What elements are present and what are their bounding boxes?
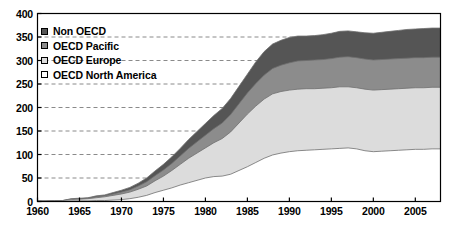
x-axis-tick-label: 2005 [395,205,435,217]
legend-item[interactable]: OECD Europe [41,54,121,66]
y-axis-tick-label: 100 [0,149,33,161]
legend-label: OECD Pacific [53,40,119,52]
legend-swatch-icon [41,57,48,64]
x-axis-tick-label: 1975 [143,205,183,217]
legend-item[interactable]: Non OECD [41,25,106,37]
legend-label: OECD Europe [53,54,121,66]
y-axis-tick-label: 300 [0,55,33,67]
x-axis-tick-label: 1960 [18,205,58,217]
legend-label: OECD North America [53,69,156,81]
legend-swatch-icon [41,71,48,78]
x-axis-tick-label: 1980 [185,205,225,217]
legend-item[interactable]: OECD North America [41,69,156,81]
y-axis-tick-label: 50 [0,172,33,184]
legend-swatch-icon [41,42,48,49]
x-axis-tick-label: 1970 [101,205,141,217]
chart-container: 0501001502002503003504001960196519701975… [0,0,456,228]
x-axis-tick-label: 1995 [311,205,351,217]
y-axis-tick-label: 150 [0,125,33,137]
legend-item[interactable]: OECD Pacific [41,40,119,52]
x-axis-tick-label: 1965 [59,205,99,217]
y-axis-tick-label: 250 [0,78,33,90]
y-axis-tick-label: 350 [0,31,33,43]
y-axis-tick-label: 200 [0,102,33,114]
x-axis-tick-label: 1990 [269,205,309,217]
x-axis-tick-label: 2000 [353,205,393,217]
x-axis-tick-label: 1985 [227,205,267,217]
legend-swatch-icon [41,28,48,35]
y-axis-tick-label: 400 [0,8,33,20]
legend-label: Non OECD [53,25,106,37]
